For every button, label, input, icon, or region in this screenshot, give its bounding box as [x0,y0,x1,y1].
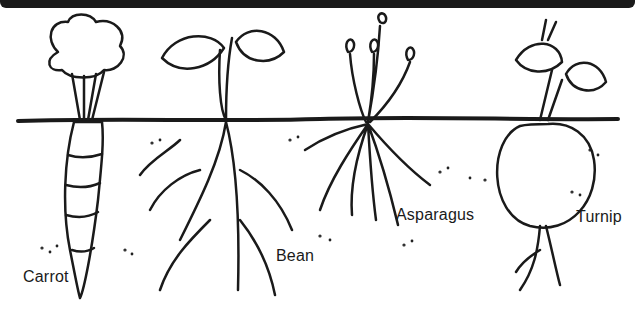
plant-roots-illustration [0,0,635,313]
ground-line [18,118,618,121]
turnip-plant [497,20,606,290]
label-carrot: Carrot [23,268,69,286]
label-asparagus: Asparagus [396,206,474,224]
soil-specks [41,136,599,255]
bean-plant [140,31,292,295]
label-bean: Bean [276,247,314,265]
label-turnip: Turnip [576,208,622,226]
carrot-plant [49,15,123,299]
